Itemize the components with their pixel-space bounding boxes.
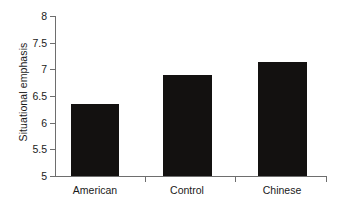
y-tick-label-6: 6 xyxy=(7,123,47,124)
y-tick-label-5: 5 xyxy=(7,176,47,177)
x-tick-label-american: American xyxy=(50,184,140,196)
y-tick-8 xyxy=(50,16,55,17)
x-tick-sep-1 xyxy=(145,177,146,182)
y-tick-label-7-5: 7.5 xyxy=(7,43,47,44)
y-tick-label-8: 8 xyxy=(7,16,47,17)
x-tick-label-control: Control xyxy=(142,184,232,196)
x-tick-label-chinese: Chinese xyxy=(237,184,327,196)
y-tick-5 xyxy=(50,176,55,177)
y-tick-label-6-5: 6.5 xyxy=(7,96,47,97)
bar-chart: Situational emphasis 8 7.5 7 6.5 6 5.5 5… xyxy=(0,0,344,207)
x-tick-sep-2 xyxy=(235,177,236,182)
bar-american xyxy=(71,104,119,176)
y-tick-label-5-5: 5.5 xyxy=(7,149,47,150)
y-tick-label-7: 7 xyxy=(7,69,47,70)
x-axis-line xyxy=(55,176,327,177)
bar-chinese xyxy=(258,62,307,176)
y-axis-line xyxy=(55,16,56,177)
bar-control xyxy=(163,75,212,176)
y-tick-6 xyxy=(50,123,55,124)
y-tick-7-5 xyxy=(50,43,55,44)
y-tick-5-5 xyxy=(50,149,55,150)
x-tick-end xyxy=(326,177,327,182)
y-axis-title: Situational emphasis xyxy=(17,7,29,177)
y-tick-6-5 xyxy=(50,96,55,97)
y-tick-7 xyxy=(50,69,55,70)
